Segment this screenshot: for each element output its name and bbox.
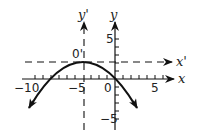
- y-prime-axis-label: y': [77, 7, 89, 22]
- origin-prime-label: 0': [72, 47, 83, 61]
- x-prime-axis-label: x': [176, 54, 187, 69]
- y-tick-label-5: 5: [106, 32, 114, 46]
- y-tick-label-neg5: −5: [100, 112, 118, 126]
- x-tick-label-neg10: −10: [14, 81, 39, 95]
- x-axis-label: x: [178, 71, 186, 86]
- x-tick-label-5: 5: [151, 81, 159, 95]
- x-tick-label-neg5: −5: [68, 81, 86, 95]
- parabola-graph: x y x' y' 0' −10 −5 0 5 5 −5: [0, 0, 197, 139]
- y-axis-label: y: [109, 7, 118, 22]
- x-tick-label-0: 0: [104, 81, 112, 95]
